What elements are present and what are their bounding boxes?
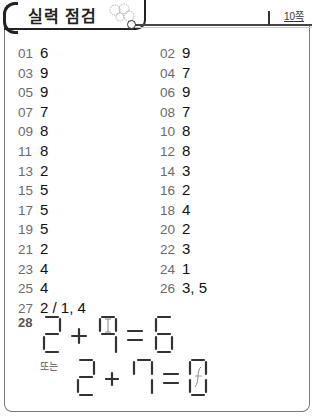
answer-item: 047 bbox=[160, 64, 190, 82]
answer-item: 155 bbox=[18, 181, 48, 199]
answer-value: 9 bbox=[182, 83, 190, 100]
question-number: 25 bbox=[18, 280, 40, 298]
question-number: 10 bbox=[160, 123, 182, 141]
answer-item: 098 bbox=[18, 122, 48, 140]
question-number: 05 bbox=[18, 84, 40, 102]
question-number: 15 bbox=[18, 182, 40, 200]
header-rule bbox=[135, 24, 312, 26]
answer-value: 5 bbox=[40, 220, 48, 237]
answer-value: 3, 5 bbox=[182, 279, 207, 296]
question-number: 13 bbox=[18, 163, 40, 181]
question-number: 07 bbox=[18, 104, 40, 122]
answer-item: 162 bbox=[160, 181, 190, 199]
matchstick-equation-1 bbox=[40, 314, 210, 356]
answer-value: 3 bbox=[182, 162, 190, 179]
page-number: 10쪽 bbox=[284, 8, 304, 23]
answer-item: 128 bbox=[160, 142, 190, 160]
answer-value: 9 bbox=[40, 83, 48, 100]
answer-item: 175 bbox=[18, 201, 48, 219]
answer-value: 2 bbox=[40, 240, 48, 257]
answer-value: 2 bbox=[182, 220, 190, 237]
answer-value: 1 bbox=[182, 260, 190, 277]
question-number: 01 bbox=[18, 45, 40, 63]
answer-value: 6 bbox=[40, 44, 48, 61]
answer-item: 234 bbox=[18, 260, 48, 278]
answer-value: 2 bbox=[182, 181, 190, 198]
answer-value: 4 bbox=[40, 279, 48, 296]
answer-value: 8 bbox=[40, 122, 48, 139]
question-number: 02 bbox=[160, 45, 182, 63]
question-number: 06 bbox=[160, 84, 182, 102]
answer-value: 8 bbox=[40, 142, 48, 159]
answer-value: 5 bbox=[40, 201, 48, 218]
question-number: 14 bbox=[160, 163, 182, 181]
question-number: 18 bbox=[160, 202, 182, 220]
question-number: 03 bbox=[18, 65, 40, 83]
section-title: 실력 점검 bbox=[28, 3, 97, 27]
answer-item: 241 bbox=[160, 260, 190, 278]
question-number: 11 bbox=[18, 143, 40, 161]
answer-item: 143 bbox=[160, 162, 190, 180]
answer-item: 195 bbox=[18, 220, 48, 238]
answer-item: 202 bbox=[160, 220, 190, 238]
answer-item: 212 bbox=[18, 240, 48, 258]
answer-item: 016 bbox=[18, 44, 48, 62]
question-number: 09 bbox=[18, 123, 40, 141]
question-number: 12 bbox=[160, 143, 182, 161]
question-number: 21 bbox=[18, 241, 40, 259]
answer-value: 4 bbox=[182, 201, 190, 218]
answer-item: 029 bbox=[160, 44, 190, 62]
answer-item: 263, 5 bbox=[160, 279, 207, 297]
question-number: 04 bbox=[160, 65, 182, 83]
answer-item: 077 bbox=[18, 103, 48, 121]
answer-item: 039 bbox=[18, 64, 48, 82]
answer-value: 8 bbox=[182, 122, 190, 139]
question-number: 23 bbox=[18, 261, 40, 279]
answer-value: 9 bbox=[40, 64, 48, 81]
answer-item: 108 bbox=[160, 122, 190, 140]
question-number: 24 bbox=[160, 261, 182, 279]
answer-item: 059 bbox=[18, 83, 48, 101]
question-number: 22 bbox=[160, 241, 182, 259]
header-tick bbox=[268, 11, 270, 25]
answer-item: 223 bbox=[160, 240, 190, 258]
question-number: 08 bbox=[160, 104, 182, 122]
answer-value: 5 bbox=[40, 181, 48, 198]
question-number: 20 bbox=[160, 221, 182, 239]
answer-item: 118 bbox=[18, 142, 48, 160]
matchstick-equation-2 bbox=[74, 357, 244, 399]
answer-value: 7 bbox=[40, 103, 48, 120]
question-28-number: 28 bbox=[18, 315, 32, 330]
answer-item: 132 bbox=[18, 162, 48, 180]
answer-value: 7 bbox=[182, 64, 190, 81]
question-number: 16 bbox=[160, 182, 182, 200]
answer-item: 254 bbox=[18, 279, 48, 297]
answer-value: 3 bbox=[182, 240, 190, 257]
answer-item: 184 bbox=[160, 201, 190, 219]
answer-value: 7 bbox=[182, 103, 190, 120]
header-rule-shadow bbox=[135, 27, 312, 28]
question-number: 17 bbox=[18, 202, 40, 220]
answer-item: 087 bbox=[160, 103, 190, 121]
or-label: 또는 bbox=[40, 358, 58, 373]
answer-item: 069 bbox=[160, 83, 190, 101]
question-number: 19 bbox=[18, 221, 40, 239]
answer-value: 4 bbox=[40, 260, 48, 277]
answer-value: 9 bbox=[182, 44, 190, 61]
answer-value: 2 bbox=[40, 162, 48, 179]
question-number: 26 bbox=[160, 280, 182, 298]
answer-value: 8 bbox=[182, 142, 190, 159]
